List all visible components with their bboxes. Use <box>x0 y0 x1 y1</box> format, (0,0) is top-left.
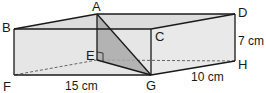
vertex-label-E: E <box>86 48 95 63</box>
vertex-label-C: C <box>155 29 164 44</box>
vertex-label-D: D <box>238 5 247 20</box>
vertex-label-G: G <box>146 78 156 93</box>
dimension-width: 10 cm <box>191 70 224 84</box>
vertex-label-F: F <box>3 79 11 93</box>
vertex-label-A: A <box>92 0 101 14</box>
cuboid-diagram: A B C D E F G H 15 cm 10 cm 7 cm <box>0 0 266 93</box>
dimension-length: 15 cm <box>65 79 98 93</box>
cuboid-svg: A B C D E F G H 15 cm 10 cm 7 cm <box>0 0 266 93</box>
vertex-label-H: H <box>238 57 247 72</box>
vertex-label-B: B <box>2 20 11 35</box>
dimension-height: 7 cm <box>238 34 264 48</box>
